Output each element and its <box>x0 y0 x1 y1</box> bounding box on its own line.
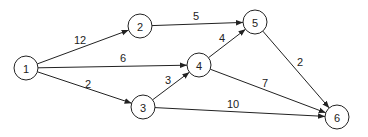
edge-weight-label: 2 <box>297 56 303 68</box>
edge-weight-label: 5 <box>193 10 199 22</box>
edge-4-5 <box>209 29 246 57</box>
nodes-layer: 123456 <box>14 10 349 129</box>
node-5: 5 <box>243 10 267 34</box>
node-3: 3 <box>131 95 155 119</box>
edge-weight-label: 10 <box>227 98 239 110</box>
edge-2-5 <box>152 22 243 25</box>
node-label: 3 <box>140 102 146 114</box>
edge-weight-label: 6 <box>120 52 126 64</box>
node-2: 2 <box>128 14 152 38</box>
node-6: 6 <box>325 105 349 129</box>
node-1: 1 <box>14 56 38 80</box>
edges-layer: 12625347102 <box>37 10 329 116</box>
node-label: 2 <box>137 21 143 33</box>
edge-weight-label: 2 <box>85 78 91 90</box>
edge-1-4 <box>38 65 187 68</box>
graph-diagram: 12625347102 123456 <box>0 0 368 137</box>
edge-weight-label: 3 <box>165 74 171 86</box>
node-label: 4 <box>196 60 202 72</box>
edge-3-6 <box>155 108 325 117</box>
node-label: 5 <box>252 17 258 29</box>
edge-weight-label: 7 <box>262 77 268 89</box>
edge-weight-label: 12 <box>74 34 86 46</box>
edge-5-6 <box>263 31 329 108</box>
node-label: 1 <box>23 63 29 75</box>
node-label: 6 <box>334 112 340 124</box>
edge-weight-label: 4 <box>219 32 225 44</box>
node-4: 4 <box>187 53 211 77</box>
